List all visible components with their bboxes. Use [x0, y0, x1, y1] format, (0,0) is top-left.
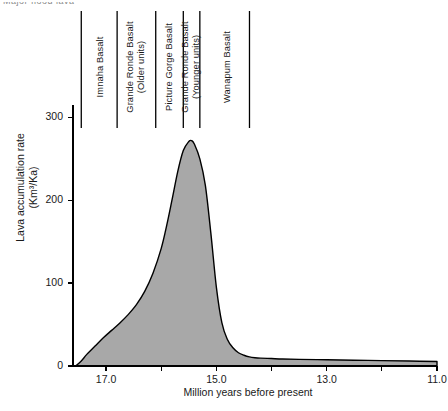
x-tick-label: 15.0 — [196, 373, 236, 385]
x-axis-label-text: Million years before present — [136, 386, 313, 398]
y-tick-label: 300 — [29, 110, 63, 122]
unit-label: Picture Gorge Basalt — [164, 8, 175, 126]
y-axis-label: Lava accumulation rate (Km³/Ka) — [14, 113, 39, 263]
lava-rate-area-fill — [76, 140, 437, 366]
x-tick-label: 11.0 — [417, 373, 448, 385]
unit-label: Grande Ronde Basalt (Younger units) — [180, 8, 201, 126]
unit-label: Grande Ronde Basalt (Older units) — [125, 8, 146, 126]
y-tick-label: 200 — [29, 193, 63, 205]
unit-label: Imnaha Basalt — [95, 8, 106, 126]
y-tick-label: 0 — [29, 359, 63, 371]
x-axis-label: Million years before present — [0, 386, 448, 398]
y-tick-label: 100 — [29, 276, 63, 288]
chart-body — [76, 140, 437, 366]
unit-label: Wanapum Basalt — [222, 8, 233, 126]
x-tick-label: 17.0 — [86, 373, 126, 385]
x-tick-label: 13.0 — [307, 373, 347, 385]
